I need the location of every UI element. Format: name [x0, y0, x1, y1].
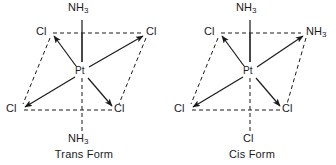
isomer-figure: NH3 Cl Cl Cl Cl NH3 Pt Trans Form [0, 0, 336, 165]
ligand-label-lower-left: Cl [174, 103, 184, 114]
cis-form-caption: Cis Form [168, 148, 336, 160]
ligand-label-upper-right: NH3 [306, 26, 326, 37]
center-atom-label: Pt [242, 66, 253, 76]
ligand-label-bottom: NH3 [68, 133, 88, 144]
ligand-label-top: NH3 [236, 2, 256, 13]
ligand-label-upper-left: Cl [204, 26, 214, 37]
ligand-label-bottom: Cl [243, 133, 253, 144]
cis-form-panel: NH3 Cl NH3 Cl Cl Cl Pt Cis Form [168, 0, 336, 165]
ligand-label-upper-left: Cl [36, 26, 46, 37]
trans-form-panel: NH3 Cl Cl Cl Cl NH3 Pt Trans Form [0, 0, 168, 165]
ligand-label-lower-right: Cl [114, 103, 124, 114]
ligand-label-lower-left: Cl [6, 103, 16, 114]
bond-pt-upper-left [222, 36, 244, 66]
guide-right-slant [287, 38, 306, 104]
trans-form-caption: Trans Form [0, 148, 168, 160]
bond-pt-lower-right [88, 78, 112, 106]
bond-pt-upper-right [257, 36, 303, 67]
cis-guide-edges [191, 33, 306, 134]
trans-guide-edges [23, 33, 146, 134]
ligand-label-lower-right: Cl [282, 103, 292, 114]
center-atom-label: Pt [74, 66, 85, 76]
bond-pt-lower-left [193, 77, 243, 107]
bond-pt-lower-left [25, 77, 75, 107]
bond-pt-lower-right [256, 78, 280, 106]
ligand-label-top: NH3 [68, 2, 88, 13]
bond-pt-upper-right [89, 36, 143, 67]
ligand-label-upper-right: Cl [146, 26, 156, 37]
bond-pt-upper-left [54, 36, 76, 66]
